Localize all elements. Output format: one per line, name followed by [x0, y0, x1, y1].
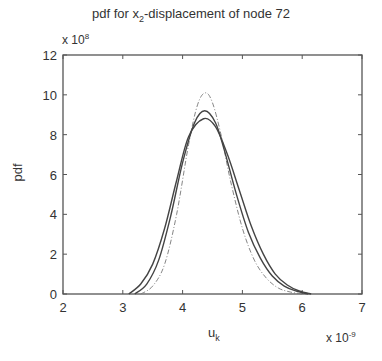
- svg-text:4: 4: [179, 300, 186, 315]
- svg-text:6: 6: [50, 168, 57, 183]
- svg-text:3: 3: [119, 300, 126, 315]
- svg-text:5: 5: [239, 300, 246, 315]
- plot-frame: [63, 55, 362, 294]
- svg-text:10: 10: [43, 88, 57, 103]
- x-tick: 4: [179, 55, 186, 315]
- x-tick: 6: [299, 55, 306, 315]
- svg-text:12: 12: [43, 48, 57, 63]
- svg-text:8: 8: [50, 128, 57, 143]
- series-curve-dashdot: [141, 93, 302, 294]
- y-tick: 4: [50, 207, 362, 222]
- svg-text:6: 6: [299, 300, 306, 315]
- x-tick: 5: [239, 55, 246, 315]
- svg-text:7: 7: [358, 300, 365, 315]
- y-tick: 8: [50, 128, 362, 143]
- svg-text:4: 4: [50, 207, 57, 222]
- plot-area: 234567024681012: [0, 0, 382, 361]
- svg-text:2: 2: [59, 300, 66, 315]
- svg-text:0: 0: [50, 287, 57, 302]
- svg-text:2: 2: [50, 247, 57, 262]
- y-tick: 2: [50, 247, 362, 262]
- x-tick: 3: [119, 55, 126, 315]
- y-tick: 6: [50, 168, 362, 183]
